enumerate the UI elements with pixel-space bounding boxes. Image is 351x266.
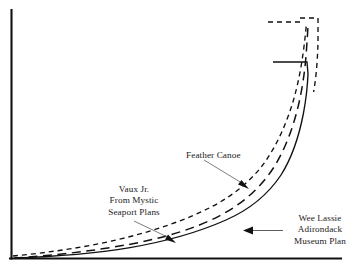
annotation-label-vaux-jr-line-3: Seaport Plans [88, 207, 180, 218]
arrowhead-wee-lassie [243, 227, 253, 235]
leader-line-feather-canoe [204, 160, 244, 184]
annotation-label-wee-lassie-line-3: Museum Plan [284, 236, 351, 247]
leader-line-vaux-jr [134, 221, 170, 238]
annotation-label-wee-lassie: Wee Lassie Adirondack Museum Plan [284, 213, 351, 247]
curve-wee-lassie-top-step [273, 62, 308, 74]
arrowhead-vaux-jr [165, 235, 176, 244]
annotation-label-vaux-jr-line-2: From Mystic [88, 195, 180, 206]
annotation-label-wee-lassie-line-1: Wee Lassie [284, 213, 351, 224]
annotation-label-feather-canoe-line-1: Feather Canoe [186, 150, 241, 161]
curve-vaux-jr-top-step [268, 18, 318, 92]
curve-vaux-jr [13, 26, 306, 256]
annotation-label-wee-lassie-line-2: Adirondack [284, 224, 351, 235]
annotation-label-vaux-jr-line-1: Vaux Jr. [88, 184, 180, 195]
curve-feather-canoe [14, 26, 308, 258]
annotation-label-feather-canoe: Feather Canoe [186, 150, 241, 161]
annotation-label-vaux-jr: Vaux Jr. From Mystic Seaport Plans [88, 184, 180, 218]
